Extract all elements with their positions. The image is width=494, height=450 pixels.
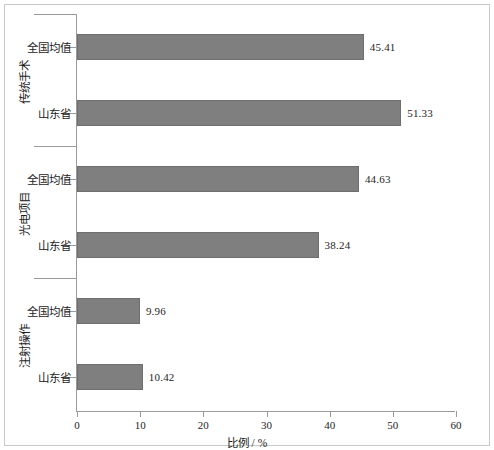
x-axis-title: 比例 / %: [0, 434, 494, 450]
bar-row-2: 44.63: [77, 166, 456, 192]
x-tick-label-50: 50: [373, 419, 413, 431]
y-axis-spine: [76, 14, 77, 411]
bar-injection-national-avg: [77, 298, 140, 324]
x-tick-60: [456, 411, 457, 417]
bar-value-0: 45.41: [370, 41, 396, 53]
x-tick-20: [203, 411, 204, 417]
x-tick-label-30: 30: [247, 419, 287, 431]
group-separator-0-1: [34, 146, 76, 147]
bar-row-5: 10.42: [77, 364, 456, 390]
x-tick-label-0: 0: [57, 419, 97, 431]
x-tick-40: [330, 411, 331, 417]
bar-value-3: 38.24: [325, 239, 351, 251]
x-tick-30: [267, 411, 268, 417]
x-axis-spine: [76, 411, 455, 412]
bar-row-0: 45.41: [77, 34, 456, 60]
x-tick-50: [393, 411, 394, 417]
bar-photoelectric-national-avg: [77, 166, 359, 192]
group-label-traditional-surgery: 传统手术: [16, 22, 32, 142]
bar-row-1: 51.33: [77, 100, 456, 126]
bar-photoelectric-shandong: [77, 232, 319, 258]
bar-value-5: 10.42: [149, 371, 175, 383]
group-label-photoelectric-project: 光电项目: [16, 154, 32, 274]
bar-row-3: 38.24: [77, 232, 456, 258]
group-label-injection-operation: 注射操作: [16, 286, 32, 406]
x-tick-label-20: 20: [183, 419, 223, 431]
bar-traditional-national-avg: [77, 34, 364, 60]
x-tick-0: [77, 411, 78, 417]
bar-traditional-shandong: [77, 100, 401, 126]
bar-row-4: 9.96: [77, 298, 456, 324]
bar-injection-shandong: [77, 364, 143, 390]
bar-value-1: 51.33: [407, 107, 433, 119]
group-separator-top: [34, 14, 76, 15]
bar-value-4: 9.96: [146, 305, 166, 317]
group-separator-1-2: [34, 278, 76, 279]
x-tick-label-10: 10: [120, 419, 160, 431]
x-tick-10: [140, 411, 141, 417]
bar-value-2: 44.63: [365, 173, 391, 185]
x-tick-label-60: 60: [436, 419, 476, 431]
bar-chart: 全国均值 山东省 全国均值 山东省 全国均值 山东省 传统手术 光电项目 注射操…: [0, 0, 494, 450]
x-tick-label-40: 40: [310, 419, 350, 431]
